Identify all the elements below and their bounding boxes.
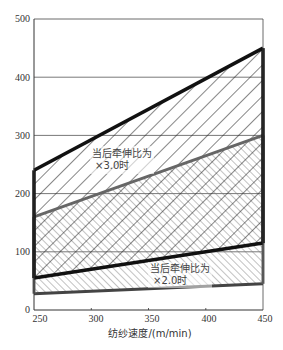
svg-text:0: 0 bbox=[25, 304, 30, 315]
svg-text:500: 500 bbox=[15, 13, 30, 24]
svg-text:×2.0时: ×2.0时 bbox=[153, 275, 187, 286]
svg-text:当后牵伸比为: 当后牵伸比为 bbox=[92, 147, 152, 159]
x-axis-title: 纺纱速度/(m/min) bbox=[108, 327, 191, 339]
svg-text:350: 350 bbox=[145, 313, 160, 324]
svg-text:200: 200 bbox=[15, 188, 30, 199]
svg-text:×3.0时: ×3.0时 bbox=[95, 160, 129, 171]
svg-text:400: 400 bbox=[202, 313, 217, 324]
svg-text:当后牵伸比为: 当后牵伸比为 bbox=[150, 262, 210, 274]
annotation-ratio-3: 当后牵伸比为 ×3.0时 bbox=[90, 146, 154, 174]
svg-text:300: 300 bbox=[89, 313, 104, 324]
svg-text:250: 250 bbox=[33, 313, 48, 324]
annotation-ratio-2: 当后牵伸比为 ×2.0时 bbox=[148, 262, 212, 288]
svg-text:400: 400 bbox=[15, 72, 30, 83]
svg-text:300: 300 bbox=[15, 130, 30, 141]
chart: 500 400 300 200 100 0 250 300 350 400 45… bbox=[0, 0, 283, 350]
svg-text:100: 100 bbox=[15, 246, 30, 257]
y-axis-ticks: 500 400 300 200 100 0 bbox=[15, 13, 30, 315]
svg-text:450: 450 bbox=[258, 313, 273, 324]
